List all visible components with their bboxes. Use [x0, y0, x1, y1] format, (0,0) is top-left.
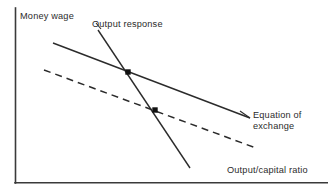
y-axis-label: Money wage	[20, 11, 74, 22]
lower-equilibrium-point-marker	[152, 107, 157, 112]
output-response-line	[98, 30, 190, 168]
economics-diagram: Money wage Output response Equation of e…	[0, 0, 328, 191]
equation-of-exchange-label: Equation of exchange	[253, 110, 302, 131]
upper-equilibrium-point-marker	[125, 69, 130, 74]
diagram-canvas	[0, 0, 328, 191]
output-response-label: Output response	[92, 19, 163, 30]
x-axis-label: Output/capital ratio	[227, 165, 308, 176]
equation-of-exchange-line	[53, 43, 250, 118]
